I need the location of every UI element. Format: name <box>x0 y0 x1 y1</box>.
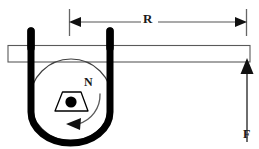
label-force-F: F <box>243 128 250 140</box>
diagram-svg <box>0 0 259 149</box>
rotation-arrowhead <box>66 118 81 130</box>
figure-canvas: R N F <box>0 0 259 149</box>
label-radius-R: R <box>143 12 152 25</box>
current-out-of-page-dot <box>65 96 76 107</box>
label-north-pole-N: N <box>84 76 93 88</box>
dimension-arrowhead-right <box>235 17 247 27</box>
dimension-line-R <box>69 9 247 36</box>
dimension-arrowhead-left <box>69 17 81 27</box>
lever-bar <box>8 46 250 63</box>
